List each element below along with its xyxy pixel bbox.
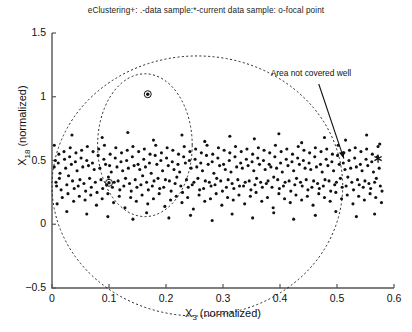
data-point: [155, 163, 158, 166]
data-point: [327, 179, 330, 182]
data-point: [69, 146, 72, 149]
data-point: [372, 170, 375, 173]
data-point: [175, 176, 178, 179]
data-point: [247, 164, 250, 167]
data-point: [128, 182, 131, 185]
data-point: [342, 162, 345, 165]
data-point: [325, 158, 328, 161]
data-point: [378, 167, 381, 170]
data-point: [219, 179, 222, 182]
x-tick-label: 0.4: [260, 292, 300, 304]
data-point: [289, 190, 292, 193]
data-point: [323, 136, 326, 139]
data-point: [375, 177, 378, 180]
data-point: [312, 179, 315, 182]
data-point: [299, 181, 302, 184]
data-point: [109, 153, 112, 156]
data-point: [141, 193, 144, 196]
data-point: [148, 162, 151, 165]
data-point: [167, 164, 170, 167]
data-point: [168, 179, 171, 182]
data-point: [321, 170, 324, 173]
data-point: [211, 219, 214, 222]
data-point: [192, 181, 195, 184]
data-point: [335, 181, 338, 184]
data-point: [229, 170, 232, 173]
data-point: [277, 192, 280, 195]
data-point: [251, 160, 254, 163]
data-point: [202, 187, 205, 190]
data-point: [349, 167, 352, 170]
data-point: [234, 145, 237, 148]
data-point: [253, 137, 256, 140]
data-point: [302, 149, 305, 152]
data-point: [113, 181, 116, 184]
current-data-sample-marker: [374, 154, 381, 162]
focal-point-center: [107, 181, 110, 184]
data-point: [211, 153, 214, 156]
data-point: [65, 183, 68, 186]
data-point: [188, 150, 191, 153]
data-point: [285, 158, 288, 161]
data-point: [325, 147, 328, 150]
data-point: [301, 184, 304, 187]
annotation-arrow-head: [339, 151, 344, 159]
data-point: [194, 158, 197, 161]
data-point: [98, 167, 101, 170]
data-point: [127, 167, 130, 170]
data-point: [97, 147, 100, 150]
data-point: [260, 200, 263, 203]
data-point: [99, 178, 102, 181]
data-point: [85, 159, 88, 162]
data-point: [225, 186, 228, 189]
data-point: [131, 155, 134, 158]
plot-canvas: [0, 0, 412, 332]
data-point: [58, 172, 61, 175]
data-point: [205, 144, 208, 147]
data-point: [370, 160, 373, 163]
data-point: [139, 183, 142, 186]
data-point: [308, 151, 311, 154]
data-point: [68, 155, 71, 158]
data-point: [203, 200, 206, 203]
data-point: [130, 190, 133, 193]
data-point: [239, 162, 242, 165]
data-point: [345, 184, 348, 187]
data-point: [282, 184, 285, 187]
data-point: [148, 153, 151, 156]
data-point: [152, 179, 155, 182]
data-point: [114, 156, 117, 159]
data-point: [90, 186, 93, 189]
data-point: [94, 181, 97, 184]
data-point: [58, 177, 61, 180]
data-point: [261, 186, 264, 189]
data-point: [363, 179, 366, 182]
data-point: [171, 160, 174, 163]
data-point: [215, 192, 218, 195]
data-point: [367, 182, 370, 185]
data-point: [255, 177, 258, 180]
data-point: [332, 169, 335, 172]
data-point: [62, 150, 65, 153]
data-point: [216, 156, 219, 159]
data-point: [184, 162, 187, 165]
x-tick-label: 0.6: [374, 292, 412, 304]
data-point: [223, 149, 226, 152]
data-point: [88, 177, 91, 180]
chart-title: eClustering+: .-data sample:*-current da…: [0, 6, 412, 15]
data-point: [199, 162, 202, 165]
data-point: [122, 184, 125, 187]
data-point: [265, 182, 268, 185]
data-point: [338, 163, 341, 166]
data-point: [369, 187, 372, 190]
data-point: [217, 146, 220, 149]
data-point: [253, 183, 256, 186]
data-point: [272, 206, 275, 209]
data-point: [91, 150, 94, 153]
data-point: [95, 191, 98, 194]
data-point: [228, 151, 231, 154]
data-point: [323, 178, 326, 181]
data-point: [141, 174, 144, 177]
data-point: [200, 151, 203, 154]
data-point: [80, 149, 83, 152]
